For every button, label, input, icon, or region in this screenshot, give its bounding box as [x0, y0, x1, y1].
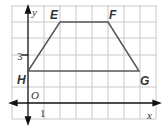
y-axis-label: y	[31, 6, 37, 18]
y-axis-arrow-icon	[26, 6, 31, 13]
x-tick-label: 1	[40, 107, 46, 119]
y-axis-arrow-down-icon	[26, 117, 31, 124]
y-tick-label: 3	[17, 50, 23, 62]
x-axis-arrow-icon	[153, 101, 160, 106]
x-axis-arrow-left-icon	[10, 101, 17, 106]
trapezoid-EFGH	[28, 22, 139, 71]
vertex-label-E: E	[50, 8, 59, 22]
x-axis-label: x	[146, 109, 152, 121]
vertex-label-H: H	[17, 73, 26, 87]
vertex-label-F: F	[109, 8, 117, 22]
origin-label: O	[31, 89, 39, 101]
coordinate-plane: E F G H y x O 3 1	[0, 0, 164, 126]
vertex-label-G: G	[140, 74, 149, 88]
